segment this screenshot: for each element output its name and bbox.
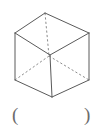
edge-top-right-to-top-front	[50, 33, 89, 55]
edge-vertical-front	[50, 55, 52, 97]
hidden-edge-vertical-back	[45, 13, 49, 56]
cube-visible-edges	[15, 13, 89, 97]
hidden-edge-bottom-back-left	[15, 56, 49, 80]
figure-page: ( )	[0, 0, 111, 126]
answer-left-parenthesis: (	[12, 104, 18, 126]
edge-top-back-to-top-right	[45, 13, 89, 33]
answer-value[interactable]	[22, 104, 84, 126]
cube-figure-container	[0, 0, 111, 104]
cube-wireframe-svg	[0, 0, 111, 104]
edge-bottom-right-to-front	[52, 80, 89, 97]
answer-right-parenthesis: )	[84, 104, 90, 126]
edge-top-back-to-top-left	[15, 13, 45, 33]
edge-bottom-left-to-front	[15, 80, 52, 97]
cube-hidden-edges	[15, 13, 89, 80]
answer-blank[interactable]: ( )	[0, 104, 111, 126]
edge-top-left-to-top-front	[15, 33, 50, 55]
hidden-edge-bottom-back-right	[49, 56, 89, 80]
